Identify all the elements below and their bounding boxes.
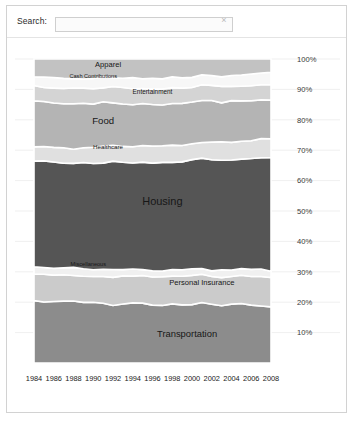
stacked-area-svg: TransportationPersonal InsuranceMiscella… — [7, 38, 348, 413]
y-axis-tick: 10% — [297, 328, 312, 337]
x-axis-tick: 2008 — [263, 374, 279, 383]
search-toolbar: Search: × — [7, 6, 346, 38]
area-layers — [34, 59, 271, 363]
x-axis-tick: 1986 — [46, 374, 62, 383]
layer-label-personal-insurance: Personal Insurance — [169, 278, 234, 287]
x-axis-ticks: 1984198619881990199219941996199820002002… — [26, 374, 279, 383]
layer-label-cash-contributions: Cash Contributions — [69, 73, 117, 79]
area-layer-food[interactable] — [34, 100, 271, 149]
x-axis-tick: 2002 — [204, 374, 220, 383]
application-window: Search: × TransportationPersonal Insuran… — [6, 5, 347, 413]
x-axis-tick: 2004 — [223, 374, 239, 383]
theme-river-chart[interactable]: TransportationPersonal InsuranceMiscella… — [7, 38, 348, 413]
x-axis-tick: 1992 — [105, 374, 121, 383]
y-axis-tick: 20% — [297, 298, 312, 307]
y-axis-tick: 70% — [297, 146, 312, 155]
x-axis-tick: 2006 — [243, 374, 259, 383]
x-axis-tick: 2000 — [184, 374, 200, 383]
search-label: Search: — [17, 16, 47, 26]
area-layer-housing[interactable] — [34, 157, 271, 271]
layer-label-housing: Housing — [142, 195, 182, 207]
y-axis-tick: 50% — [297, 207, 312, 216]
x-axis-tick: 1988 — [65, 374, 81, 383]
y-axis-tick: 30% — [297, 268, 312, 277]
x-axis-tick: 1990 — [85, 374, 101, 383]
y-axis-tick: 80% — [297, 116, 312, 125]
x-axis-tick: 1984 — [26, 374, 42, 383]
x-axis-tick: 1994 — [125, 374, 141, 383]
x-axis-tick: 1998 — [164, 374, 180, 383]
layer-label-healthcare: Healthcare — [93, 143, 123, 150]
search-input[interactable] — [55, 17, 233, 32]
layer-label-transportation: Transportation — [157, 328, 217, 339]
layer-label-apparel: Apparel — [95, 60, 121, 69]
y-axis-tick: 60% — [297, 176, 312, 185]
layer-label-food: Food — [92, 115, 114, 126]
y-axis-tick: 100% — [297, 55, 317, 64]
search-field-container: × — [55, 13, 233, 28]
y-axis-ticks: 10%20%30%40%50%60%70%80%90%100% — [297, 55, 317, 338]
area-layer-transportation[interactable] — [34, 301, 271, 363]
layer-label-miscellaneous: Miscellaneous — [71, 261, 107, 267]
x-axis-tick: 1996 — [144, 374, 160, 383]
y-axis-tick: 90% — [297, 85, 312, 94]
y-axis-tick: 40% — [297, 237, 312, 246]
layer-label-entertainment: Entertainment — [133, 88, 173, 95]
clear-search-icon[interactable]: × — [218, 14, 230, 27]
